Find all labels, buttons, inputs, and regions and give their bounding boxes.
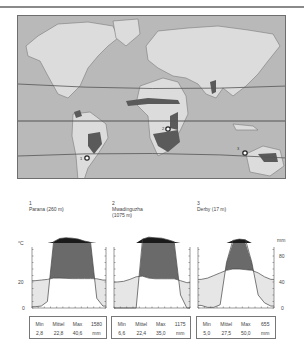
table-header-min: Min xyxy=(197,321,217,327)
table-header-max: Max xyxy=(151,321,171,327)
table-header-max: Max xyxy=(68,321,87,327)
climate-chart-derby xyxy=(195,225,277,313)
station-name: Derby (17 m) xyxy=(197,206,226,212)
stats-table-derby: Min Mittel Max 655 5,0 27,5 50,0 mm xyxy=(196,316,276,339)
table-value-min: 5,0 xyxy=(197,330,217,336)
right-axis-tick-80: 80 xyxy=(279,253,285,259)
table-header-min: Min xyxy=(112,321,132,327)
table-header-min: Min xyxy=(30,321,49,327)
station-marker-2 xyxy=(166,127,170,131)
table-header-precip: 1175 xyxy=(171,321,191,327)
continent-greenland xyxy=(113,19,140,46)
station-marker-3 xyxy=(243,151,247,155)
right-axis-tick-0: 0 xyxy=(281,305,284,311)
table-value-max: 40,6 xyxy=(68,330,87,336)
perhumid-area xyxy=(32,238,106,243)
table-header-mean: Mittel xyxy=(132,321,152,327)
table-header-max: Max xyxy=(236,321,256,327)
right-axis-tick-40: 40 xyxy=(279,279,285,285)
station-label-3: 3 Derby (17 m) xyxy=(197,200,226,212)
table-value-unit: mm xyxy=(171,330,191,336)
world-map: 1 2 3 xyxy=(17,15,286,179)
table-value-max: 35,0 xyxy=(151,330,171,336)
islands-indonesia xyxy=(233,124,258,130)
table-value-mean: 27,5 xyxy=(217,330,237,336)
station-name-elevation: (1075 m) xyxy=(112,212,143,218)
right-axis-unit: mm xyxy=(277,237,285,243)
top-rule xyxy=(0,6,304,8)
table-value-min: 2,8 xyxy=(30,330,49,336)
perhumid-area xyxy=(114,237,190,243)
world-map-graphic: 1 2 3 xyxy=(18,16,286,179)
station-name: Parana (260 m) xyxy=(29,206,64,212)
station-label-2: 2 Mwadinguzha (1075 m) xyxy=(112,200,143,218)
table-header-precip: 1580 xyxy=(87,321,106,327)
table-header-mean: Mittel xyxy=(49,321,68,327)
table-value-unit: mm xyxy=(87,330,106,336)
station-marker-1 xyxy=(85,156,89,160)
stats-table-parana: Min Mittel Max 1580 2,8 22,8 40,6 mm xyxy=(29,316,107,339)
left-axis-unit: °C xyxy=(18,240,24,246)
table-value-max: 50,0 xyxy=(236,330,256,336)
climate-chart-parana xyxy=(29,225,109,313)
table-header-mean: Mittel xyxy=(217,321,237,327)
left-axis-tick-0: 0 xyxy=(22,305,25,311)
stats-table-mwadinguzha: Min Mittel Max 1175 6,6 22,4 35,0 mm xyxy=(111,316,191,339)
table-value-mean: 22,8 xyxy=(49,330,68,336)
table-value-min: 6,6 xyxy=(112,330,132,336)
table-header-precip: 655 xyxy=(256,321,276,327)
climate-chart-mwadinguzha xyxy=(111,225,193,313)
table-value-unit: mm xyxy=(256,330,276,336)
table-value-mean: 22,4 xyxy=(132,330,152,336)
station-marker-label-3: 3 xyxy=(237,146,240,151)
left-axis-tick-20: 20 xyxy=(18,279,24,285)
station-label-1: 1 Parana (260 m) xyxy=(29,200,64,212)
